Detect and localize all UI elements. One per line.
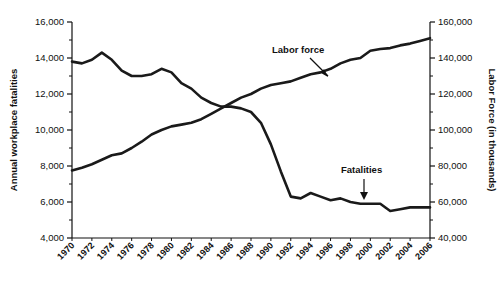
left-tick-label: 6,000 [40,196,64,207]
x-tick-label: 1990 [254,240,275,261]
series-line-fatalities [72,53,430,211]
x-tick-label: 1998 [334,240,355,261]
x-tick-label: 2000 [354,240,375,261]
right-tick-label: 120,000 [438,88,472,99]
x-tick-label: 2006 [413,240,434,261]
right-axis-ticks: 40,00060,00080,000100,000120,000140,0001… [430,16,472,243]
x-tick-label: 2004 [393,240,414,261]
annotation-label-fatalities: Fatalities [341,164,382,175]
annotation-fatalities: Fatalities [341,164,382,200]
left-tick-label: 4,000 [40,232,64,243]
left-tick-label: 12,000 [35,88,64,99]
right-tick-label: 80,000 [438,160,467,171]
x-axis-ticks: 1970197219741976197819801982198419861988… [55,238,434,262]
x-tick-label: 1980 [155,240,176,261]
x-tick-label: 1978 [135,240,156,261]
left-tick-label: 10,000 [35,124,64,135]
left-axis-ticks: 4,0006,0008,00010,00012,00014,00016,000 [35,16,72,243]
x-tick-label: 1982 [175,240,196,261]
plot-axes [72,22,430,238]
annotation-arrowhead-fatalities [360,192,368,200]
x-tick-label: 1976 [115,240,136,261]
x-tick-label: 1984 [194,240,215,261]
x-tick-label: 1988 [234,240,255,261]
right-tick-label: 140,000 [438,52,472,63]
x-tick-label: 1996 [314,240,335,261]
annotation-label-labor-force: Labor force [272,44,324,55]
x-tick-label: 1970 [55,240,76,261]
left-tick-label: 14,000 [35,52,64,63]
chart-svg: 4,0006,0008,00010,00012,00014,00016,000 … [0,0,501,281]
x-tick-label: 1986 [214,240,235,261]
left-tick-label: 16,000 [35,16,64,27]
left-axis-title: Annual workplace fatalities [8,69,19,191]
x-tick-label: 1972 [75,240,96,261]
right-axis-title: Labor Force (in thousands) [487,69,498,192]
left-tick-label: 8,000 [40,160,64,171]
chart-container: 4,0006,0008,00010,00012,00014,00016,000 … [0,0,501,281]
right-tick-label: 100,000 [438,124,472,135]
series-line-labor-force [72,38,430,170]
x-tick-label: 1974 [95,240,116,261]
x-tick-label: 1992 [274,240,295,261]
right-tick-label: 40,000 [438,232,467,243]
right-tick-label: 60,000 [438,196,467,207]
x-tick-label: 2002 [373,240,394,261]
x-tick-label: 1994 [294,240,315,261]
right-tick-label: 160,000 [438,16,472,27]
